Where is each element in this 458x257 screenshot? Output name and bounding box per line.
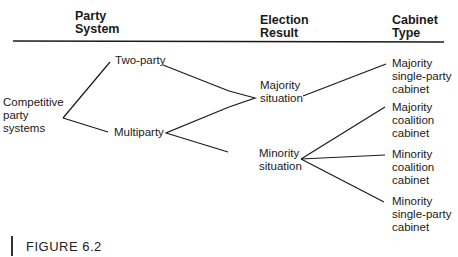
header-party-system: Party System <box>75 10 119 36</box>
edge-majority-vertex <box>229 91 255 107</box>
edge-root-two-party <box>63 62 110 118</box>
edge-minority-minority-coalition <box>301 155 385 159</box>
edge-two-party-majority <box>163 65 229 91</box>
edge-multiparty-majority <box>166 107 229 152</box>
node-two-party: Two-party <box>115 54 166 67</box>
node-multiparty: Multiparty <box>114 126 164 139</box>
node-majority-situation: Majority situation <box>260 79 303 105</box>
diagram-lines <box>0 0 458 257</box>
node-minority-single-party-cabinet: Minority single-party cabinet <box>392 195 451 234</box>
header-cabinet-type: Cabinet Type <box>392 14 438 40</box>
edge-minority-minority-single <box>301 159 384 202</box>
node-competitive-party-systems: Competitive party systems <box>3 96 64 135</box>
edge-root-multiparty <box>63 118 108 132</box>
node-minority-coalition-cabinet: Minority coalition cabinet <box>392 148 434 187</box>
node-majority-coalition-cabinet: Majority coalition cabinet <box>392 101 434 140</box>
figure-caption: FIGURE 6.2 <box>26 239 102 254</box>
caption-bar <box>11 236 13 256</box>
node-majority-single-party-cabinet: Majority single-party cabinet <box>392 57 451 96</box>
node-minority-situation: Minority situation <box>259 147 302 173</box>
header-rule <box>13 41 444 42</box>
edge-minority-majority-coalition <box>301 107 385 159</box>
edge-majority-single-party <box>303 64 386 96</box>
header-election-result: Election Result <box>260 14 309 40</box>
